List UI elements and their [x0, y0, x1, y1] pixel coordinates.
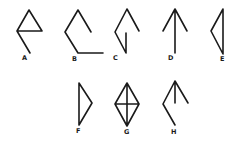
figure-h-label: H [171, 128, 176, 136]
figure-e-shape [211, 9, 223, 54]
figure-d: D [163, 9, 187, 62]
figure-h-shape [163, 81, 188, 125]
figure-f: F [76, 83, 92, 135]
figure-d-shape [163, 9, 187, 53]
figure-c-shape [115, 9, 139, 53]
figure-f-label: F [76, 127, 80, 135]
figure-a: A [17, 10, 42, 62]
figure-f-shape [79, 83, 92, 125]
figure-g-shape [115, 83, 139, 126]
figure-g: G [115, 83, 139, 136]
figure-b: B [65, 10, 103, 63]
figure-b-label: B [72, 55, 77, 63]
figure-e: E [211, 9, 224, 63]
figure-g-label: G [124, 128, 129, 136]
figure-h: H [163, 81, 188, 136]
figure-c: C [113, 9, 139, 62]
figure-e-label: E [220, 55, 224, 63]
figure-a-shape [17, 10, 42, 53]
figure-a-label: A [22, 54, 27, 62]
figure-b-shape [65, 10, 103, 53]
figures-diagram: A B C D E F G H [0, 0, 238, 146]
figure-c-label: C [113, 54, 118, 62]
figure-d-label: D [168, 54, 174, 62]
